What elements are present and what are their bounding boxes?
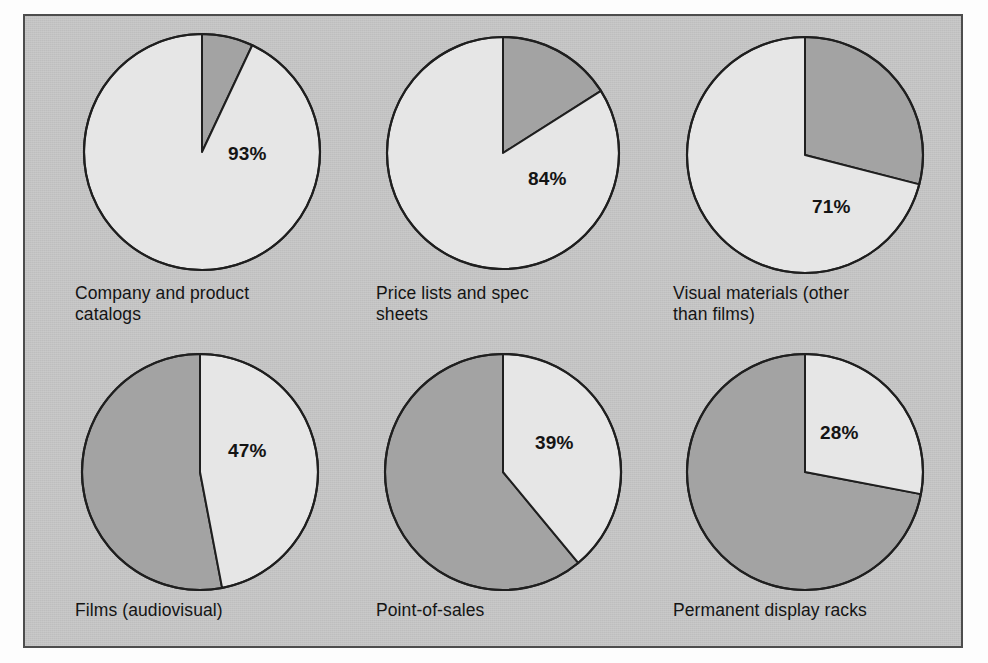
pie-films-audiovisual-value-label: 47%: [228, 440, 267, 462]
pie-permanent-display-racks-value-label: 28%: [820, 422, 859, 444]
pie-films-audiovisual-caption: Films (audiovisual): [75, 600, 223, 621]
pie-permanent-display-racks: [684, 351, 926, 593]
pie-films-audiovisual-graphic: [79, 351, 321, 593]
pie-price-lists-and-spec-sheets-graphic: [384, 34, 622, 272]
pie-company-and-product-catalogs-value-label: 93%: [228, 143, 267, 165]
pie-price-lists-and-spec-sheets: [384, 34, 622, 272]
pie-permanent-display-racks-graphic: [684, 351, 926, 593]
pie-company-and-product-catalogs: [81, 31, 323, 273]
pie-price-lists-and-spec-sheets-value-label: 84%: [528, 168, 567, 190]
pie-visual-materials-other-than-films-graphic: [684, 34, 926, 276]
pie-price-lists-and-spec-sheets-caption: Price lists and spec sheets: [376, 283, 529, 325]
pie-permanent-display-racks-caption: Permanent display racks: [673, 600, 867, 621]
pie-visual-materials-other-than-films: [684, 34, 926, 276]
pie-films-audiovisual: [79, 351, 321, 593]
pie-company-and-product-catalogs-caption: Company and product catalogs: [75, 283, 249, 325]
pie-point-of-sales-caption: Point-of-sales: [376, 600, 484, 621]
pie-visual-materials-other-than-films-value-label: 71%: [812, 196, 851, 218]
pie-point-of-sales: [382, 351, 624, 593]
pie-point-of-sales-graphic: [382, 351, 624, 593]
figure-canvas: 93%Company and product catalogs84%Price …: [0, 0, 988, 663]
pie-slice-highlight: [84, 34, 320, 270]
pie-company-and-product-catalogs-graphic: [81, 31, 323, 273]
pie-visual-materials-other-than-films-caption: Visual materials (other than films): [673, 283, 849, 325]
pie-slice-highlight: [200, 354, 318, 588]
pie-point-of-sales-value-label: 39%: [535, 432, 574, 454]
